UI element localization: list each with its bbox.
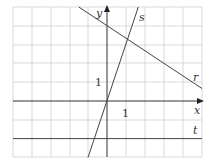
- y-tick-label: 1: [95, 76, 102, 89]
- coordinate-plane: y x 1 1 r s t: [0, 0, 208, 166]
- x-axis-label: x: [194, 104, 201, 117]
- line-r-label: r: [193, 71, 199, 84]
- axes: [13, 10, 199, 157]
- line-s-label: s: [139, 11, 145, 24]
- x-tick-label: 1: [122, 107, 129, 120]
- line-t-label: t: [193, 124, 198, 137]
- y-axis-label: y: [95, 7, 103, 20]
- y-axis-arrow-icon: [104, 5, 110, 12]
